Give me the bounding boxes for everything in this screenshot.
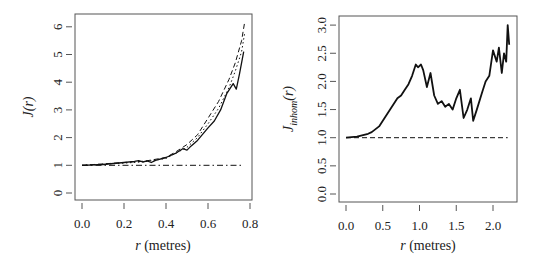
left-x-axis-label: r (metres) (135, 238, 191, 254)
right-y-tick-label: 2.5 (314, 45, 329, 61)
right-x-tick-label: 0.5 (375, 218, 391, 233)
left-y-tick-label: 1 (50, 162, 65, 169)
left-series-solid (82, 52, 244, 166)
right-series (346, 25, 509, 138)
left-x-tick-label: 0.8 (242, 216, 258, 231)
left-series-dotted (82, 32, 245, 165)
right-y-tick-label: 1.0 (314, 130, 329, 146)
right-y-tick-label: 2.0 (314, 73, 329, 89)
left-series (82, 21, 245, 165)
left-y-axis-label: J(r) (21, 96, 37, 117)
left-x-tick-label: 0.2 (116, 216, 132, 231)
left-y-tick-label: 3 (50, 107, 65, 114)
left-y-tick-label: 2 (50, 134, 65, 141)
left-plot-frame (75, 14, 252, 200)
left-x-tick-label: 0.4 (158, 216, 175, 231)
left-x-tick-label: 0.6 (200, 216, 217, 231)
left-y-axis: 0123456 (50, 23, 72, 196)
left-series-dashed (82, 21, 245, 165)
right-y-tick-label: 1.5 (314, 101, 329, 117)
right-y-tick-label: 0.0 (314, 186, 329, 202)
left-plot: 0.00.20.40.60.8 0123456 r (metres) J(r) (21, 14, 258, 254)
left-x-tick-label: 0.0 (74, 216, 90, 231)
right-x-tick-label: 2.0 (485, 218, 501, 233)
right-x-tick-label: 1.5 (448, 218, 464, 233)
right-y-axis: 0.00.51.01.52.02.53.0 (314, 17, 336, 202)
right-plot-frame (339, 16, 517, 202)
left-y-tick-label: 4 (50, 78, 65, 85)
right-x-tick-label: 0.0 (338, 218, 354, 233)
left-x-axis: 0.00.20.40.60.8 (74, 203, 258, 231)
right-y-tick-label: 0.5 (314, 158, 329, 174)
right-x-axis-label: r (metres) (400, 238, 456, 254)
right-plot: 0.00.51.01.52.0 0.00.51.01.52.02.53.0 r … (281, 16, 517, 254)
right-series-solid (346, 25, 509, 138)
left-y-tick-label: 6 (50, 23, 65, 30)
left-y-tick-label: 5 (50, 51, 65, 58)
right-y-tick-label: 3.0 (314, 17, 329, 33)
figure: 0.00.20.40.60.8 0123456 r (metres) J(r) … (0, 0, 534, 263)
left-y-tick-label: 0 (50, 190, 65, 197)
right-x-axis: 0.00.51.01.52.0 (338, 205, 501, 233)
right-x-tick-label: 1.0 (411, 218, 427, 233)
right-y-axis-label: Jinhom(r) (281, 86, 299, 132)
